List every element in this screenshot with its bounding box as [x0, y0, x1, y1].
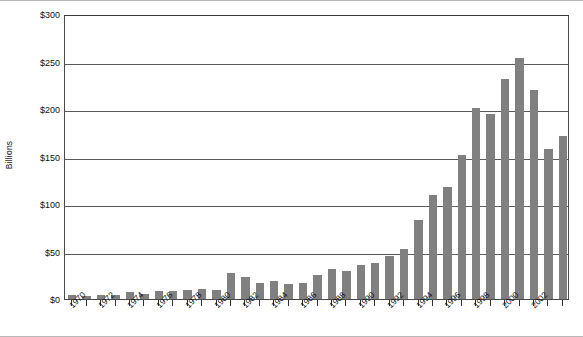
- bar: [544, 149, 552, 299]
- y-tick-label: $300: [20, 10, 60, 20]
- bar: [486, 114, 494, 299]
- bar: [559, 136, 567, 299]
- plot-area: [64, 15, 569, 300]
- bar: [472, 108, 480, 299]
- y-tick-label: $0: [20, 295, 60, 305]
- figure-top-rule: [0, 0, 583, 1]
- bar: [515, 58, 523, 299]
- bar: [385, 256, 393, 299]
- x-axis-tick-labels: 1970197219741976197819801982198419861988…: [64, 303, 583, 337]
- bar: [530, 90, 538, 299]
- bar: [429, 195, 437, 300]
- bars-layer: [65, 16, 568, 299]
- y-axis-title: Billions: [4, 125, 14, 185]
- y-tick-label: $200: [20, 105, 60, 115]
- bar: [414, 220, 422, 299]
- y-tick-label: $50: [20, 248, 60, 258]
- y-tick-label: $250: [20, 58, 60, 68]
- bar: [458, 155, 466, 299]
- y-tick-label: $150: [20, 153, 60, 163]
- y-axis-tick-labels: $0$50$100$150$200$250$300: [16, 15, 60, 300]
- bar: [443, 187, 451, 299]
- bar-chart: Billions $0$50$100$150$200$250$300 19701…: [0, 0, 583, 337]
- bar: [501, 79, 509, 299]
- y-tick-label: $100: [20, 200, 60, 210]
